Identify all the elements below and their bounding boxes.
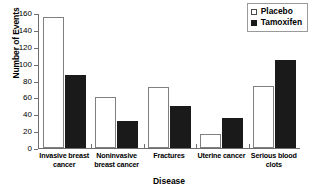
bar-tamoxifen[interactable] <box>222 118 243 148</box>
y-axis-tick-label: 120 <box>6 44 32 52</box>
x-axis-title: Disease <box>38 176 300 186</box>
bar-tamoxifen[interactable] <box>65 75 86 148</box>
y-axis-tick-mark <box>34 115 38 116</box>
bar-tamoxifen[interactable] <box>117 121 138 148</box>
x-axis-group-tick <box>91 144 92 148</box>
bar-group <box>144 14 196 148</box>
bar-placebo[interactable] <box>148 87 169 148</box>
bar-placebo[interactable] <box>200 134 221 148</box>
y-axis-tick-mark <box>34 82 38 83</box>
y-axis-tick-label: 60 <box>6 94 32 102</box>
bar-group <box>91 14 143 148</box>
y-axis-tick-mark <box>34 132 38 133</box>
y-axis-tick: 0 <box>38 149 39 150</box>
x-axis-line <box>38 148 300 149</box>
plot-area: 020406080100120140160 <box>38 14 300 149</box>
x-axis-category-label: Invasive breastcancer <box>38 152 90 169</box>
x-axis-category-label: Noninvasivebreast cancer <box>90 152 142 169</box>
x-axis-category-labels: Invasive breastcancerNoninvasivebreast c… <box>38 152 300 176</box>
bar-group <box>39 14 91 148</box>
y-axis-tick-label: 140 <box>6 27 32 35</box>
bar-tamoxifen[interactable] <box>275 60 296 148</box>
bar-chart: Number of Events 020406080100120140160 I… <box>0 0 312 191</box>
y-axis-tick-label: 0 <box>6 145 32 153</box>
y-axis-tick-mark <box>34 48 38 49</box>
x-axis-group-tick <box>144 144 145 148</box>
y-axis-tick-mark <box>34 65 38 66</box>
bar-group <box>249 14 301 148</box>
legend-item-placebo[interactable]: Placebo <box>251 6 302 17</box>
x-axis-category-label: Uterine cancer <box>195 152 247 161</box>
y-axis-tick-mark <box>34 14 38 15</box>
y-axis-tick-mark <box>34 31 38 32</box>
y-axis-tick-label: 100 <box>6 61 32 69</box>
y-axis-tick-label: 80 <box>6 78 32 86</box>
legend-item-label: Placebo <box>261 7 293 16</box>
y-axis-tick-label: 40 <box>6 111 32 119</box>
chart-legend: Placebo Tamoxifen <box>247 3 308 32</box>
y-axis-tick-mark <box>34 98 38 99</box>
x-axis-group-tick <box>249 144 250 148</box>
y-axis-tick-label: 20 <box>6 128 32 136</box>
bar-group <box>196 14 248 148</box>
bar-placebo[interactable] <box>43 17 64 148</box>
bar-placebo[interactable] <box>95 97 116 148</box>
open-square-swatch-icon <box>251 9 257 15</box>
x-axis-category-label: Serious bloodclots <box>248 152 300 169</box>
bars-layer <box>39 14 300 148</box>
x-axis-category-label: Fractures <box>143 152 195 161</box>
x-axis-group-tick <box>196 144 197 148</box>
legend-item-tamoxifen[interactable]: Tamoxifen <box>251 17 302 28</box>
y-axis-tick-mark <box>34 149 38 150</box>
bar-placebo[interactable] <box>253 86 274 148</box>
legend-item-label: Tamoxifen <box>261 18 302 27</box>
bar-tamoxifen[interactable] <box>170 106 191 148</box>
y-axis-tick-label: 160 <box>6 10 32 18</box>
filled-square-swatch-icon <box>251 20 257 26</box>
